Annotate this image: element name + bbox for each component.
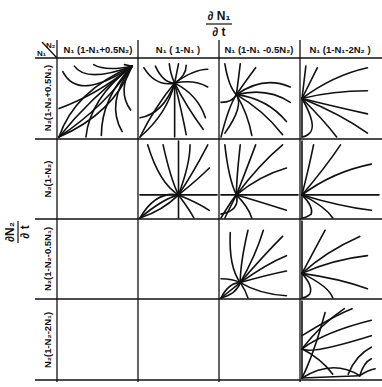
trajectory-curve (302, 195, 371, 210)
column-header-2: N₁ ( 1-N₁ ) (156, 44, 200, 55)
column-header-3: N₁ (1-N₁ -0.5N₂) (224, 44, 293, 55)
trajectory-curve (175, 83, 203, 129)
trajectory-curve (360, 359, 372, 376)
trajectory-curve (175, 83, 187, 135)
trajectory-curve (236, 145, 282, 195)
trajectory-curve (59, 66, 132, 137)
trajectory-curve (302, 99, 337, 138)
trajectory-curve (302, 320, 371, 348)
phase-portrait-r1-c4 (302, 66, 367, 137)
trajectory-curve (221, 95, 236, 103)
trajectory-curve (175, 69, 208, 83)
trajectory-curve (179, 195, 210, 210)
trajectory-curve (225, 145, 237, 195)
trajectory-curve (302, 376, 360, 378)
trajectory-curve (302, 68, 367, 99)
phase-portrait-r2-c3 (221, 145, 298, 218)
trajectory-curve (124, 65, 132, 67)
trajectory-curve (302, 236, 360, 273)
trajectory-curve (236, 92, 290, 102)
column-header-4: N₁ (1-N₁-2N₂ ) (309, 44, 370, 55)
row-header-3: N₂(1-N₂-0.5N₁) (42, 227, 53, 291)
row-header-2: N₂(1-N₂) (42, 161, 53, 198)
trajectory-curve (225, 64, 237, 95)
phase-diagram-grid: ∂ N₁ ∂ t ∂N₂ ∂ t N₁ N₂ N₁ (1-N₁+0.5N₂) N… (0, 0, 382, 387)
phase-portrait-r3-c3 (221, 230, 286, 298)
left-title-denominator: ∂ t (18, 225, 32, 238)
row-header-4: N₂(1-N₂-2N₁) (42, 312, 53, 368)
phase-portrait-r3-c4 (302, 221, 367, 298)
phase-portrait-r1-c3 (221, 64, 290, 137)
trajectory-curve (302, 273, 367, 288)
trajectory-curve (163, 145, 178, 195)
phase-portrait-r2-c2 (140, 141, 217, 218)
trajectory-curve (140, 194, 179, 218)
top-title-numerator: ∂ N₁ (208, 9, 231, 23)
trajectory-curve (59, 66, 132, 137)
corner-row-var: N₁ (37, 49, 47, 58)
trajectory-curve (148, 145, 179, 195)
phase-portrait-r1-c1 (59, 65, 132, 137)
left-title-numerator: ∂N₂ (3, 222, 17, 242)
trajectory-curve (302, 164, 371, 195)
row-header-1: N₂(1-N₂+0.5N₁) (42, 65, 53, 131)
trajectory-curve (302, 195, 333, 218)
trajectory-curve (59, 66, 132, 137)
top-title-denominator: ∂ t (212, 25, 225, 39)
phase-portrait-r1-c2 (140, 64, 208, 137)
trajectory-curve (302, 230, 325, 273)
trajectory-curve (230, 233, 240, 283)
trajectory-curve (169, 64, 174, 83)
phase-portrait-r4-c4 (302, 301, 375, 378)
trajectory-curve (236, 168, 286, 195)
trajectory-curve (221, 195, 236, 218)
trajectory-curve (302, 99, 367, 114)
grid-lines (35, 40, 382, 382)
column-header-1: N₁ (1-N₁+0.5N₂) (64, 44, 133, 55)
phase-portrait-r2-c4 (302, 141, 379, 218)
trajectory-curve (179, 145, 208, 195)
corner-col-var: N₂ (46, 41, 56, 50)
trajectory-curve (59, 66, 132, 137)
